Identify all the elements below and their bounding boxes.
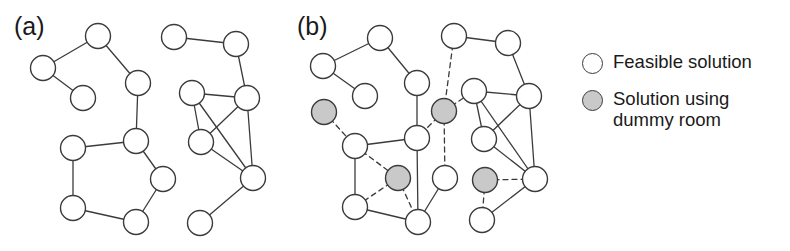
graph-node-feasible <box>180 81 205 106</box>
graph-node-feasible <box>235 86 260 111</box>
graph-node-feasible <box>462 79 487 104</box>
graph-node-feasible <box>124 210 149 235</box>
graph-node-feasible <box>368 26 393 51</box>
graph-node-feasible <box>241 166 266 191</box>
dummy-room-solution-marker-icon <box>582 90 603 111</box>
graph-node-feasible <box>517 84 542 109</box>
graph-node-feasible <box>71 86 96 111</box>
legend-item-dummy: Solution using dummy room <box>582 89 782 130</box>
panel-label-b: (b) <box>297 14 328 39</box>
graph-node-feasible <box>189 130 214 155</box>
graph-node-feasible <box>343 195 368 220</box>
graph-node-feasible <box>311 54 336 79</box>
graph-node-dummy <box>473 168 498 193</box>
graph-node-feasible <box>523 167 548 192</box>
graph-node-feasible <box>433 166 458 191</box>
graph-node-dummy <box>312 100 337 125</box>
figure-canvas: (a) (b) Feasible solution Solution using… <box>0 0 790 251</box>
panel-label-a: (a) <box>14 14 45 39</box>
edges-layer <box>43 36 535 223</box>
graph-node-feasible <box>151 167 176 192</box>
graph-node-dummy <box>432 99 457 124</box>
nodes-layer <box>31 24 548 236</box>
graph-node-feasible <box>353 84 378 109</box>
graph-node-feasible <box>188 211 213 236</box>
graph-node-feasible <box>405 126 430 151</box>
graph-node-feasible <box>405 71 430 96</box>
graph-node-feasible <box>224 32 249 57</box>
graph-node-feasible <box>162 25 187 50</box>
graph-node-feasible <box>496 31 521 56</box>
legend-item-feasible: Feasible solution <box>582 52 782 74</box>
graph-node-feasible <box>343 134 368 159</box>
legend-label-feasible: Feasible solution <box>613 52 752 73</box>
graph-node-feasible <box>61 196 86 221</box>
graph-node-feasible <box>472 127 497 152</box>
graph-node-feasible <box>442 24 467 49</box>
graph-node-feasible <box>126 71 151 96</box>
graph-node-feasible <box>470 208 495 233</box>
graph-node-feasible <box>124 129 149 154</box>
legend: Feasible solution Solution using dummy r… <box>582 52 782 145</box>
graph-node-dummy <box>386 166 411 191</box>
graph-node-feasible <box>31 56 56 81</box>
legend-label-dummy: Solution using dummy room <box>613 89 729 130</box>
graph-node-feasible <box>86 24 111 49</box>
feasible-solution-marker-icon <box>582 53 603 74</box>
graph-node-feasible <box>406 210 431 235</box>
graph-node-feasible <box>61 136 86 161</box>
